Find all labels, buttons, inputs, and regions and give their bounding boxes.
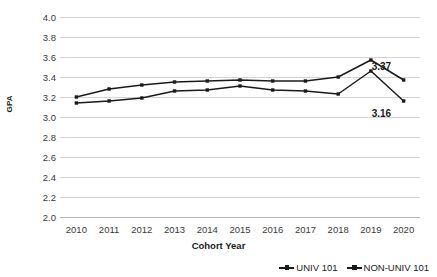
data-point-marker [402, 78, 405, 81]
y-axis-tick-label: 2.0 [24, 212, 56, 223]
plot-area [60, 17, 420, 217]
y-axis-tick-label: 2.6 [24, 152, 56, 163]
data-point-marker [271, 88, 274, 91]
data-point-marker [402, 99, 405, 102]
x-axis-title: Cohort Year [0, 240, 437, 251]
legend-item[interactable]: UNIV 101 [279, 262, 337, 273]
series-lines [60, 17, 420, 217]
data-point-marker [304, 89, 307, 92]
y-axis-tick-label: 2.4 [24, 172, 56, 183]
data-point-marker [336, 75, 339, 78]
data-point-marker [238, 78, 241, 81]
data-point-marker [107, 87, 110, 90]
y-axis-tick-label: 3.4 [24, 72, 56, 83]
gridline [60, 217, 420, 218]
y-axis-title: GPA [5, 99, 14, 113]
data-point-marker [304, 79, 307, 82]
data-point-marker [107, 99, 110, 102]
data-value-label: 3.37 [372, 61, 391, 72]
legend-item[interactable]: NON-UNIV 101 [347, 262, 429, 273]
data-point-marker [140, 96, 143, 99]
data-point-marker [173, 80, 176, 83]
legend-marker-icon [347, 264, 362, 272]
data-point-marker [206, 79, 209, 82]
legend-marker-icon [279, 264, 294, 272]
data-point-marker [206, 88, 209, 91]
y-axis-tick-label: 3.0 [24, 112, 56, 123]
data-point-marker [173, 89, 176, 92]
gpa-line-chart: GPA 4.03.83.63.43.23.02.82.62.42.22.0 20… [0, 0, 437, 277]
chart-legend: UNIV 101NON-UNIV 101 [279, 262, 429, 273]
data-point-marker [336, 92, 339, 95]
y-axis-tick-label: 3.6 [24, 52, 56, 63]
y-axis-tick-label: 4.0 [24, 12, 56, 23]
data-point-marker [271, 79, 274, 82]
y-axis-tick-label: 2.8 [24, 132, 56, 143]
x-axis-tick-label: 2020 [381, 224, 427, 235]
y-axis-tick-label: 3.8 [24, 32, 56, 43]
y-axis-tick-label: 3.2 [24, 92, 56, 103]
data-value-label: 3.16 [372, 108, 391, 119]
data-point-marker [75, 95, 78, 98]
data-point-marker [238, 84, 241, 87]
y-axis-tick-label: 2.2 [24, 192, 56, 203]
data-point-marker [140, 83, 143, 86]
legend-label: NON-UNIV 101 [364, 262, 429, 273]
data-point-marker [75, 101, 78, 104]
legend-label: UNIV 101 [296, 262, 337, 273]
